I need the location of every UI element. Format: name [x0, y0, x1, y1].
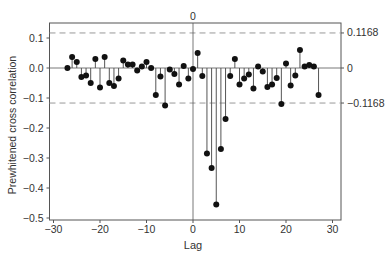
data-point [185, 76, 191, 82]
data-point [195, 50, 201, 56]
data-point [292, 73, 298, 79]
x-axis: −30−20−100102030 [45, 220, 339, 235]
x-axis-label: Lag [184, 239, 202, 251]
x-tick-label: 0 [190, 223, 196, 235]
data-point [69, 54, 75, 60]
data-point [269, 82, 275, 88]
top-zero-label: 0 [190, 10, 196, 22]
data-point [88, 80, 94, 86]
data-point [74, 59, 80, 65]
data-point [213, 202, 219, 208]
data-point [260, 69, 266, 75]
data-point [246, 72, 252, 78]
y-axis-label: Prewhitened cross correlation [6, 56, 18, 194]
right-reference-labels: 0.11680−0.1168 [341, 26, 385, 108]
data-point [278, 101, 284, 107]
data-point [176, 82, 182, 88]
x-tick-label: −10 [138, 223, 156, 235]
data-point [311, 64, 317, 70]
y-tick-label: 0.1 [29, 32, 44, 44]
data-point [148, 65, 154, 71]
y-tick-label: −0.5 [23, 212, 44, 224]
right-tick-label: −0.1168 [347, 97, 385, 109]
data-point [83, 73, 89, 79]
right-tick-label: 0.1168 [347, 26, 378, 38]
data-point [250, 85, 256, 91]
data-point [167, 67, 173, 73]
data-point [157, 73, 163, 79]
data-point [64, 65, 70, 71]
y-tick-label: −0.1 [23, 92, 44, 104]
data-point [134, 67, 140, 73]
right-tick-label: 0 [347, 62, 353, 74]
data-point [92, 56, 98, 62]
x-tick-label: −30 [45, 223, 63, 235]
data-point [111, 83, 117, 89]
data-point [283, 61, 289, 67]
data-point [144, 59, 150, 65]
data-point [153, 92, 159, 98]
y-tick-label: −0.4 [23, 182, 44, 194]
data-point [97, 85, 103, 91]
y-axis: 0.10.0−0.1−0.2−0.3−0.4−0.5 [23, 32, 50, 224]
data-point [162, 103, 168, 109]
y-tick-label: 0.0 [29, 62, 44, 74]
data-point [120, 58, 126, 64]
x-tick-label: 20 [280, 223, 292, 235]
cross-correlation-chart: −30−20−100102030 0.10.0−0.1−0.2−0.3−0.4−… [0, 0, 390, 263]
data-point [241, 76, 247, 82]
data-point [116, 76, 122, 82]
data-point [139, 64, 145, 70]
data-point [190, 66, 196, 72]
data-point [199, 73, 205, 79]
data-point [255, 64, 261, 70]
data-point [288, 82, 294, 88]
data-point [232, 56, 238, 62]
data-point [237, 82, 243, 88]
y-tick-label: −0.2 [23, 122, 44, 134]
data-point [274, 75, 280, 81]
x-tick-label: 30 [327, 223, 339, 235]
y-tick-label: −0.3 [23, 152, 44, 164]
data-point [223, 116, 229, 122]
x-tick-label: −20 [91, 223, 109, 235]
data-point [297, 47, 303, 53]
data-point [130, 61, 136, 67]
data-point [204, 151, 210, 157]
data-point [181, 63, 187, 69]
data-point [171, 71, 177, 77]
x-tick-label: 10 [234, 223, 246, 235]
data-point [218, 146, 224, 152]
data-point [209, 165, 215, 171]
data-point [227, 73, 233, 79]
data-point [102, 54, 108, 60]
data-point [316, 92, 322, 98]
